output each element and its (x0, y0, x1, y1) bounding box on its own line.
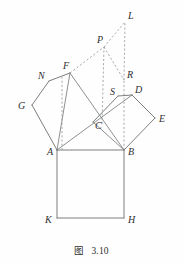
caption-label: 图 (74, 245, 84, 256)
edge-G-N (32, 81, 49, 105)
vertex-label-C: C (95, 120, 102, 131)
dashed-P-R (104, 47, 124, 80)
vertex-label-B: B (128, 146, 134, 157)
vertex-label-R: R (126, 69, 133, 80)
dashed-construction-lines (62, 22, 125, 150)
vertex-label-D: D (134, 84, 143, 95)
edge-C-S (93, 96, 118, 122)
figure-container: A B C D E F G H K L N P R S 图3.10 (0, 0, 183, 263)
vertex-labels: A B C D E F G H K L N P R S (18, 10, 165, 225)
edge-G-A (32, 105, 57, 150)
dashed-R-L (124, 22, 125, 80)
left-square-GNFA (32, 73, 70, 150)
vertex-label-K: K (44, 214, 53, 225)
caption-number: 3.10 (91, 246, 108, 256)
edge-S-D (118, 95, 132, 96)
vertex-label-H: H (127, 214, 136, 225)
vertex-label-N: N (37, 70, 46, 81)
vertex-label-E: E (158, 113, 165, 124)
vertex-label-F: F (62, 60, 70, 71)
vertex-label-S: S (110, 86, 115, 97)
edge-N-F (49, 73, 70, 81)
figure-caption: 图3.10 (0, 243, 183, 257)
vertex-label-L: L (127, 10, 134, 21)
dashed-P-L (104, 22, 125, 47)
edge-A-F-diagonal (57, 73, 70, 150)
dashed-F-P (70, 47, 104, 73)
vertex-label-A: A (46, 146, 54, 157)
triangle-and-diagonals (57, 73, 132, 150)
edge-D-E (132, 95, 155, 118)
geometry-diagram: A B C D E F G H K L N P R S (0, 0, 183, 263)
edge-B-F-diagonal (70, 73, 124, 150)
vertex-label-P: P (96, 34, 103, 45)
vertex-label-G: G (18, 100, 25, 111)
bottom-square-ABHK (57, 150, 124, 218)
